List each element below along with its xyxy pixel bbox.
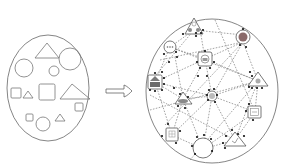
scattered-shapes — [11, 43, 90, 131]
people-icon — [256, 79, 261, 84]
circle-node-bottom — [193, 138, 213, 158]
square-shape — [75, 103, 83, 111]
gear-icon — [209, 93, 215, 99]
diagram-canvas — [0, 0, 281, 165]
triangle-node-mid-left — [175, 92, 192, 104]
person-icon — [188, 28, 192, 32]
left-group — [7, 35, 90, 141]
circle-node-left — [164, 41, 176, 53]
cloud-icon — [178, 99, 188, 103]
transform-arrow-icon — [106, 85, 132, 97]
triangle-shape — [35, 43, 59, 58]
square-shape — [26, 114, 33, 121]
triangle-node-bottom-right — [224, 132, 246, 146]
triangle-shape — [60, 84, 90, 99]
triangle-node-right — [248, 72, 268, 86]
square-shape — [39, 84, 55, 100]
square-shape — [11, 88, 21, 98]
circle-shape — [36, 117, 50, 131]
circle-shape — [15, 59, 33, 77]
diagram-svg — [0, 0, 281, 165]
circle-node-top-right — [236, 30, 250, 44]
shield-icon — [239, 33, 248, 42]
square-node-bottom-left — [166, 128, 178, 141]
circle-shape — [59, 48, 81, 70]
triangle-shape — [23, 91, 33, 98]
square-node-right — [248, 106, 261, 118]
triangle-shape — [55, 114, 65, 121]
square-node-left — [148, 75, 162, 89]
circle-shape — [49, 66, 59, 76]
right-group — [146, 18, 278, 163]
pentagon-node-center — [198, 52, 212, 66]
dots-icon — [167, 46, 169, 48]
person-icon — [196, 28, 200, 32]
